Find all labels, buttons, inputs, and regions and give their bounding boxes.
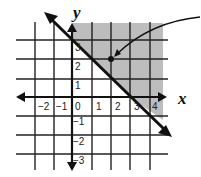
svg-text:−2: −2 — [73, 136, 85, 147]
svg-text:0: 0 — [75, 101, 81, 112]
svg-text:4: 4 — [152, 101, 158, 112]
svg-text:1: 1 — [75, 80, 81, 91]
svg-text:2: 2 — [75, 61, 81, 72]
svg-text:−1: −1 — [56, 101, 68, 112]
svg-text:1: 1 — [96, 101, 102, 112]
svg-text:−3: −3 — [73, 155, 85, 166]
svg-text:−1: −1 — [73, 116, 85, 127]
svg-text:3: 3 — [134, 101, 140, 112]
svg-text:−2: −2 — [38, 101, 50, 112]
svg-text:2: 2 — [115, 101, 121, 112]
y-axis-label: y — [71, 3, 81, 22]
svg-text:3: 3 — [75, 42, 81, 53]
inequality-graph: −2 −1 0 1 2 3 4 3 2 1 −1 −2 −3 y x — [0, 0, 201, 177]
highlighted-point — [108, 56, 114, 62]
x-axis-label: x — [177, 89, 187, 108]
